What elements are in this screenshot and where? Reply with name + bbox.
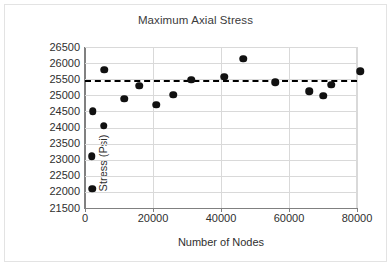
y-axis-tick-label: 24000 xyxy=(49,122,80,133)
y-axis-tick-labels: 2150022000225002300023500240002450025000… xyxy=(28,47,80,208)
data-point xyxy=(239,55,247,63)
data-point xyxy=(357,68,365,76)
data-point xyxy=(272,79,280,87)
data-point xyxy=(221,73,229,81)
gridline-vertical xyxy=(153,47,154,208)
data-point xyxy=(89,108,97,116)
plot-area: Stress (Psi) xyxy=(85,47,357,208)
x-axis-tick-label: 40000 xyxy=(206,213,237,224)
gridline-vertical xyxy=(289,47,290,208)
y-axis-tick-label: 22000 xyxy=(49,186,80,197)
x-axis-tick-label: 60000 xyxy=(274,213,305,224)
x-axis-tick-label: 80000 xyxy=(342,213,373,224)
trendline xyxy=(85,80,357,82)
data-point xyxy=(100,66,108,74)
x-axis-title: Number of Nodes xyxy=(85,236,357,248)
y-axis-tick-label: 26000 xyxy=(49,58,80,69)
x-axis-tick-labels: 020000400006000080000 xyxy=(85,213,357,229)
data-point xyxy=(88,153,96,161)
y-axis-tick-label: 21500 xyxy=(49,203,80,214)
y-axis-tick-label: 26500 xyxy=(49,42,80,53)
y-axis-tick-label: 25000 xyxy=(49,90,80,101)
x-axis-tick-label: 20000 xyxy=(138,213,169,224)
y-axis-tick-label: 23000 xyxy=(49,154,80,165)
data-point xyxy=(153,101,161,109)
data-point xyxy=(100,122,108,130)
data-point xyxy=(136,82,144,90)
chart-screenshot: Maximum Axial Stress 2150022000225002300… xyxy=(0,0,391,274)
data-point xyxy=(306,88,314,96)
y-axis-tick-label: 24500 xyxy=(49,106,80,117)
chart-title: Maximum Axial Stress xyxy=(0,14,391,26)
data-point xyxy=(89,185,97,193)
gridline-vertical xyxy=(221,47,222,208)
data-point xyxy=(319,92,327,100)
data-point xyxy=(188,76,196,84)
x-axis-tick-label: 0 xyxy=(82,213,88,224)
y-axis-tick-label: 22500 xyxy=(49,170,80,181)
y-axis-title: Stress (Psi) xyxy=(97,118,109,208)
data-point xyxy=(170,91,178,99)
y-axis-tick-label: 25500 xyxy=(49,74,80,85)
data-point xyxy=(327,81,335,89)
y-axis-tick-label: 23500 xyxy=(49,138,80,149)
data-point xyxy=(121,95,129,103)
